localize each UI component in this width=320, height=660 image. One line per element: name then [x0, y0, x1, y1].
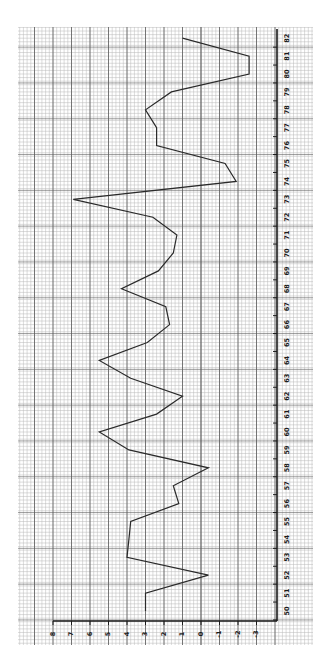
y-tick-label: -3	[252, 630, 260, 637]
x-tick-label: 78	[283, 105, 291, 115]
x-tick-label: 74	[283, 176, 291, 186]
y-tick-label: 4	[123, 631, 131, 636]
x-tick-label: 77	[283, 123, 291, 132]
y-tick-label: 0	[197, 631, 205, 636]
x-tick-label: 53	[283, 553, 291, 562]
grid-minor	[18, 27, 313, 645]
x-tick-label: 66	[283, 320, 291, 330]
x-tick-label: 80	[283, 69, 291, 79]
x-tick-label: 65	[283, 338, 291, 348]
x-tick-label: 79	[283, 87, 291, 97]
x-tick-label: 55	[283, 517, 291, 527]
x-tick-label: 73	[283, 195, 291, 204]
y-tick-label: 6	[86, 631, 94, 636]
x-tick-label: 61	[283, 409, 291, 419]
x-tick-label: 75	[283, 159, 291, 169]
x-tick-label: 50	[283, 606, 291, 616]
x-tick-label: 70	[283, 248, 291, 258]
y-tick-label: -2	[234, 630, 242, 637]
x-tick-label: 51	[283, 588, 291, 598]
x-tick-label: 82	[283, 34, 291, 43]
x-tick-label: 81	[283, 51, 291, 61]
x-tick-label: 62	[283, 392, 291, 401]
x-tick-label: 63	[283, 374, 291, 383]
y-tick-label: -1	[215, 630, 223, 638]
x-tick-label: 56	[283, 499, 291, 509]
x-tick-label: 57	[283, 481, 291, 490]
y-tick-label: 1	[178, 631, 186, 636]
x-tick-label: 72	[283, 213, 291, 222]
y-tick-label: 8	[49, 631, 57, 636]
x-tick-label: 69	[283, 266, 291, 276]
x-tick-label: 68	[283, 284, 291, 294]
y-tick-label: 3	[141, 632, 149, 637]
y-tick-label: 5	[104, 631, 112, 636]
x-tick-label: 58	[283, 463, 291, 473]
line-chart: 5051525354555657585960616263646566676869…	[0, 0, 320, 660]
x-tick-label: 64	[283, 355, 291, 365]
y-axis-tick-labels: 876543210-1-2-3	[49, 630, 261, 638]
x-tick-label: 71	[283, 230, 291, 240]
x-tick-label: 76	[283, 141, 291, 151]
x-tick-label: 59	[283, 445, 291, 455]
x-tick-label: 54	[283, 534, 291, 544]
x-tick-label: 60	[283, 427, 291, 437]
x-tick-label: 52	[283, 571, 291, 580]
y-tick-label: 7	[67, 632, 75, 637]
grid-major	[18, 27, 313, 645]
y-tick-label: 2	[160, 632, 168, 637]
x-tick-label: 67	[283, 302, 291, 311]
